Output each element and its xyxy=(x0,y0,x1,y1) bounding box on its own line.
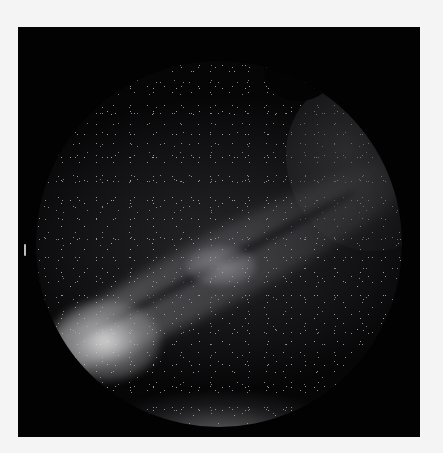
star-cloud xyxy=(186,246,256,286)
galactic-core xyxy=(50,301,160,381)
all-sky-image xyxy=(36,61,402,427)
light-streak xyxy=(24,244,26,256)
photo-frame xyxy=(18,27,420,437)
